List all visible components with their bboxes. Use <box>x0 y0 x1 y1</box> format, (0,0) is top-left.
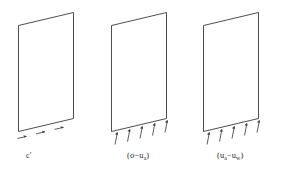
load-arrow <box>257 120 260 133</box>
load-arrow <box>127 129 130 142</box>
panel-cohesion <box>18 13 74 139</box>
load-arrow <box>244 123 247 136</box>
load-arrow <box>36 131 45 134</box>
panel-matric-suction <box>204 13 261 145</box>
load-arrow <box>18 135 27 138</box>
panel-cohesion-face <box>19 13 74 132</box>
load-arrow <box>232 126 235 139</box>
load-arrow <box>207 132 210 145</box>
panel-matric-suction-face <box>204 13 259 132</box>
load-arrow <box>152 123 155 136</box>
load-arrow <box>55 126 64 129</box>
load-arrow <box>219 129 222 142</box>
load-arrow <box>115 132 118 145</box>
panel-net-normal-stress-face <box>112 13 167 132</box>
load-arrow <box>140 126 143 139</box>
panel-net-normal-stress <box>112 13 169 145</box>
load-arrow <box>165 120 168 133</box>
shear-strength-components-figure <box>0 0 287 179</box>
